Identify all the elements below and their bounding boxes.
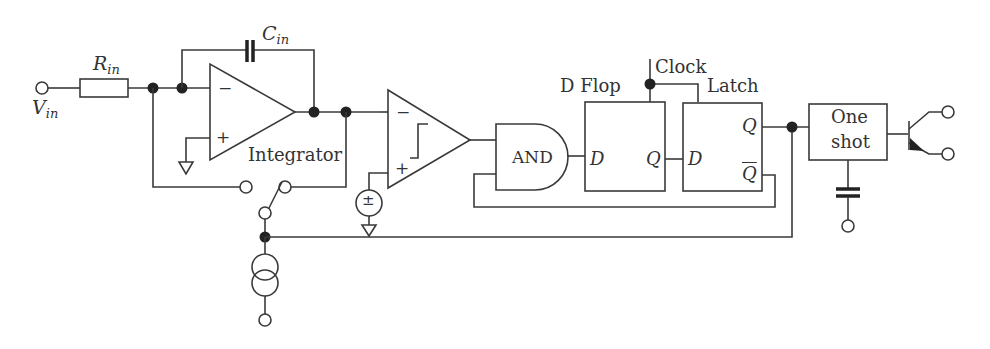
comparator	[369, 90, 470, 190]
vin-label: Vin	[32, 98, 58, 117]
junction-dot	[645, 79, 656, 90]
source-polarity-label: ±	[362, 193, 375, 208]
dflop-q-pin: Q	[646, 150, 661, 168]
latch-title: Latch	[707, 77, 759, 95]
comparator-plus-sign: +	[395, 160, 409, 177]
comparator-minus-sign: −	[396, 104, 410, 121]
and-gate-label: AND	[512, 149, 553, 166]
vin-terminal	[36, 82, 80, 94]
junction-dot	[309, 107, 320, 118]
dflop-d-pin: D	[590, 150, 604, 168]
integrator-minus-sign: −	[218, 80, 232, 97]
output-transistor	[909, 106, 954, 160]
junction-dot	[787, 122, 798, 133]
integrator-label: Integrator	[248, 146, 342, 164]
oneshot-label-line1: One	[831, 108, 868, 126]
input-resistor	[80, 79, 210, 97]
dflop-title: D Flop	[560, 77, 621, 95]
latch-d-pin: D	[688, 150, 702, 168]
circuit-diagram: Vin Rin Cin − + Integrator − + ± AND D F…	[0, 0, 990, 349]
integrator-plus-sign: +	[216, 129, 230, 146]
rin-label: Rin	[93, 54, 120, 73]
latch-q-pin: Q	[742, 117, 757, 135]
current-source	[252, 237, 278, 326]
oneshot-label-line2: shot	[831, 133, 870, 151]
cin-label: Cin	[262, 24, 289, 43]
clock-label: Clock	[655, 58, 706, 76]
schematic-drawing	[0, 0, 990, 349]
d-flip-flop	[585, 84, 683, 191]
latch-qbar-pin: Q	[742, 165, 757, 183]
